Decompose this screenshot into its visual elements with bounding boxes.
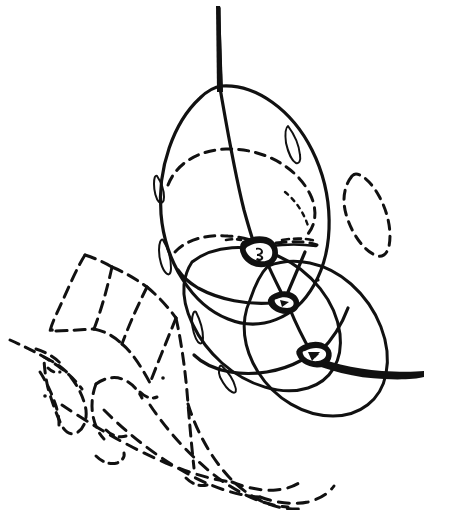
stray-dot-1: [316, 278, 319, 281]
line-drawing-canvas: [0, 0, 450, 510]
figure-root: [0, 0, 450, 510]
hidden-dot-3: [161, 376, 165, 380]
hidden-dot-1: [50, 328, 54, 332]
stem-continuation: [219, 8, 221, 90]
hidden-dot-2: [43, 394, 47, 398]
